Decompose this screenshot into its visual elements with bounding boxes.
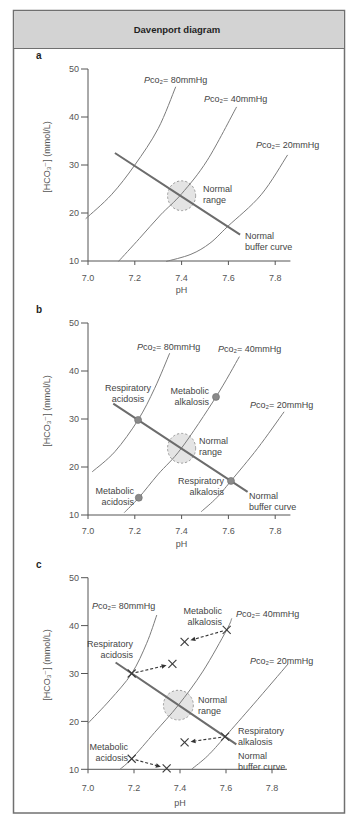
x-tick-label: 7.0 (82, 273, 95, 283)
marker-dot-respiratory-acidosis (135, 416, 142, 423)
marker-label-metabolic-acidosis: Metabolicacidosis (89, 742, 128, 763)
y-tick-label: 40 (69, 366, 79, 376)
isopleth-label-pco2-40: Pco₂= 40mmHg (218, 344, 281, 354)
y-tick-label: 30 (69, 160, 79, 170)
x-tick-label: 7.6 (220, 783, 233, 793)
pco2-value: co₂= 40mmHg (224, 344, 281, 354)
y-axis-title: [HCO₃⁻] (mmol/L) (42, 121, 52, 193)
isopleth-label-pco2-80: Pco₂= 80mmHg (144, 75, 207, 85)
y-tick-label: 50 (69, 318, 79, 328)
y-tick-label: 20 (69, 462, 79, 472)
marker-label-metabolic-alkalosis-line: alkalosis (187, 617, 222, 627)
davenport-figure: Davenport diagram a7.07.27.47.67.8102030… (0, 0, 352, 827)
isopleth-label-pco2-20: Pco₂= 20mmHg (250, 400, 313, 410)
x-tick-label: 7.8 (266, 783, 279, 793)
marker-label-metabolic-acidosis-line: acidosis (101, 497, 134, 507)
x-tick-label: 7.2 (128, 783, 141, 793)
panel-letter-a: a (36, 50, 42, 61)
y-tick-label: 10 (69, 256, 79, 266)
normal-range-label-line: range (199, 447, 222, 457)
x-axis-title: pH (176, 539, 188, 549)
marker-label-metabolic-alkalosis-line: Metabolic (170, 386, 209, 396)
y-tick-label: 30 (69, 414, 79, 424)
marker-label-metabolic-acidosis-line: Metabolic (89, 742, 128, 752)
marker-label-respiratory-acidosis-line: Respiratory (105, 383, 152, 393)
y-tick-label: 50 (69, 573, 79, 583)
figure-title: Davenport diagram (134, 24, 221, 35)
normal-range-label-line: range (203, 195, 226, 205)
marker-label-respiratory-acidosis-line: Respiratory (87, 639, 134, 649)
marker-label-respiratory-alkalosis-line: Respiratory (178, 476, 225, 486)
isopleth-label-pco2-80: Pco₂= 80mmHg (137, 342, 200, 352)
x-axis-title: pH (176, 285, 188, 295)
x-tick-label: 7.8 (269, 526, 282, 536)
x-tick-label: 7.2 (129, 273, 142, 283)
y-tick-label: 20 (69, 717, 79, 727)
marker-dot-respiratory-alkalosis (227, 477, 234, 484)
isopleth-label-pco2-20: Pco₂= 20mmHg (250, 656, 313, 666)
marker-label-respiratory-alkalosis-line: alkalosis (238, 737, 273, 747)
panel-letter-b: b (36, 304, 42, 315)
marker-label-respiratory-acidosis-line: acidosis (112, 394, 145, 404)
x-tick-label: 7.0 (82, 783, 95, 793)
marker-label-metabolic-alkalosis: Metabolicalkalosis (183, 606, 222, 627)
pco2-value: co₂= 20mmHg (262, 140, 319, 150)
y-tick-label: 40 (69, 112, 79, 122)
pco2-value: co₂= 40mmHg (242, 609, 299, 619)
y-tick-label: 20 (69, 208, 79, 218)
marker-label-respiratory-alkalosis-line: alkalosis (189, 487, 224, 497)
x-tick-label: 7.8 (269, 273, 282, 283)
isopleth-label-pco2-80: Pco₂= 80mmHg (92, 601, 155, 611)
pco2-value: co₂= 80mmHg (143, 342, 200, 352)
marker-label-metabolic-alkalosis-line: Metabolic (183, 606, 222, 616)
y-axis-title: [HCO₃⁻] (mmol/L) (42, 629, 52, 701)
x-tick-label: 7.4 (175, 273, 188, 283)
marker-dot-metabolic-alkalosis (212, 393, 219, 400)
normal-range-label-line: range (198, 706, 221, 716)
normal-range-label-line: Normal (199, 436, 228, 446)
pco2-value: co₂= 80mmHg (150, 75, 207, 85)
marker-label-metabolic-acidosis-line: Metabolic (95, 486, 134, 496)
pco2-value: co₂= 40mmHg (210, 94, 267, 104)
buffer-curve-label-line: Normal (245, 231, 274, 241)
marker-label-metabolic-alkalosis-line: alkalosis (174, 397, 209, 407)
marker-label-respiratory-alkalosis-line: Respiratory (238, 726, 285, 736)
isopleth-label-pco2-40: Pco₂= 40mmHg (204, 94, 267, 104)
marker-label-respiratory-acidosis-line: acidosis (100, 650, 133, 660)
buffer-curve-label-line: Normal (249, 491, 278, 501)
pco2-value: co₂= 20mmHg (256, 656, 313, 666)
panel-letter-c: c (36, 559, 42, 570)
buffer-curve-label-line: buffer curve (238, 762, 285, 772)
x-tick-label: 7.4 (175, 526, 188, 536)
y-tick-label: 10 (69, 510, 79, 520)
marker-label-metabolic-acidosis-line: acidosis (95, 753, 128, 763)
y-tick-label: 40 (69, 621, 79, 631)
normal-range-label-line: Normal (198, 695, 227, 705)
x-tick-label: 7.0 (82, 526, 95, 536)
y-tick-label: 30 (69, 669, 79, 679)
x-tick-label: 7.6 (222, 273, 235, 283)
pco2-value: co₂= 80mmHg (98, 601, 155, 611)
normal-range-label-line: Normal (203, 184, 232, 194)
buffer-curve-label-line: buffer curve (249, 502, 296, 512)
x-tick-label: 7.6 (222, 526, 235, 536)
buffer-curve-label-line: Normal (238, 751, 267, 761)
isopleth-label-pco2-40: Pco₂= 40mmHg (236, 609, 299, 619)
y-tick-label: 50 (69, 64, 79, 74)
x-tick-label: 7.4 (174, 783, 187, 793)
marker-label-metabolic-alkalosis: Metabolicalkalosis (170, 386, 209, 407)
isopleth-label-pco2-20: Pco₂= 20mmHg (256, 140, 319, 150)
y-axis-title: [HCO₃⁻] (mmol/L) (42, 375, 52, 447)
marker-dot-metabolic-acidosis (135, 494, 142, 501)
marker-label-metabolic-acidosis: Metabolicacidosis (95, 486, 134, 507)
y-tick-label: 10 (69, 765, 79, 775)
x-axis-title: pH (174, 798, 186, 808)
x-tick-label: 7.2 (129, 526, 142, 536)
pco2-value: co₂= 20mmHg (256, 400, 313, 410)
buffer-curve-label-line: buffer curve (245, 242, 292, 252)
